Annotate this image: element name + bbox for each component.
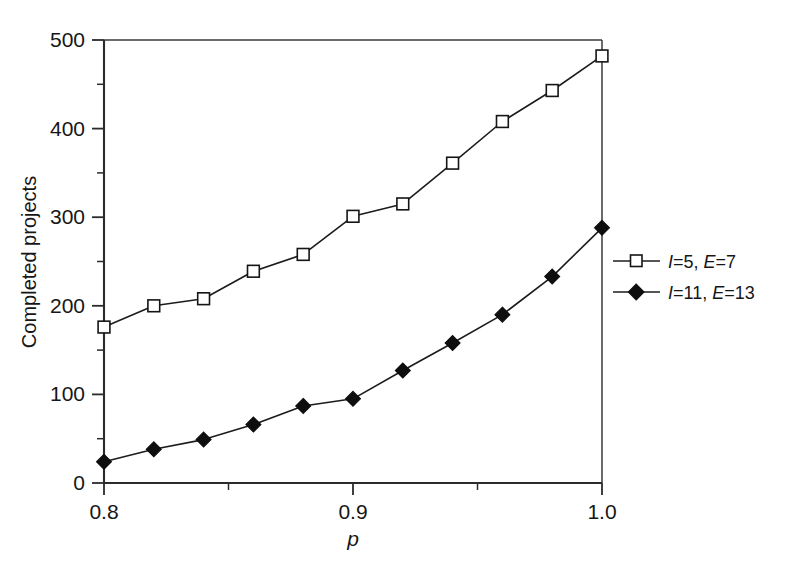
legend-value-E-0: =7 xyxy=(716,252,737,272)
y-axis-ticks xyxy=(92,40,104,483)
legend-value-I-0: =5, xyxy=(673,252,699,272)
data-point-1-0 xyxy=(97,454,112,469)
data-point-0-1 xyxy=(148,300,160,312)
data-point-1-7 xyxy=(445,336,460,351)
y-tick-label-300: 300 xyxy=(50,205,85,228)
x-axis-tick-labels: 0.8 0.9 1.0 xyxy=(89,500,616,523)
data-point-0-10 xyxy=(596,50,608,62)
data-point-0-3 xyxy=(248,265,260,277)
data-point-0-5 xyxy=(347,210,359,222)
y-tick-label-200: 200 xyxy=(50,294,85,317)
data-point-0-7 xyxy=(447,157,459,169)
legend-marker-open-square xyxy=(631,255,643,267)
data-point-1-3 xyxy=(246,417,261,432)
data-point-1-5 xyxy=(346,391,361,406)
y-tick-label-100: 100 xyxy=(50,382,85,405)
x-tick-label-1p0: 1.0 xyxy=(587,500,616,523)
y-tick-label-500: 500 xyxy=(50,28,85,51)
x-tick-label-0p9: 0.9 xyxy=(338,500,367,523)
y-tick-label-0: 0 xyxy=(73,471,85,494)
series-0 xyxy=(98,50,608,333)
y-axis-title: Completed projects xyxy=(18,176,40,348)
data-point-1-8 xyxy=(495,307,510,322)
x-axis-title: p xyxy=(346,527,359,550)
data-point-1-2 xyxy=(196,432,211,447)
legend-label-1: I=11, E=13 xyxy=(668,283,755,303)
series-line-0 xyxy=(104,56,602,327)
series-line-1 xyxy=(104,228,602,462)
data-point-1-6 xyxy=(395,363,410,378)
legend: I=5, E=7 I=11, E=13 xyxy=(613,252,755,303)
legend-label-0: I=5, E=7 xyxy=(668,252,736,272)
y-axis-tick-labels: 0 100 200 300 400 500 xyxy=(50,28,85,494)
x-axis-ticks xyxy=(104,483,602,495)
data-point-0-2 xyxy=(198,293,210,305)
legend-value-E-1: =13 xyxy=(724,283,755,303)
figure-container: 0 100 200 300 400 500 0.8 0.9 1.0 p Comp… xyxy=(0,0,790,571)
data-point-0-8 xyxy=(497,116,509,128)
legend-value-I-1: =11, xyxy=(673,283,707,303)
data-point-0-6 xyxy=(397,198,409,210)
data-point-1-1 xyxy=(146,442,161,457)
x-tick-label-0p8: 0.8 xyxy=(89,500,118,523)
y-tick-label-400: 400 xyxy=(50,117,85,140)
data-point-0-9 xyxy=(546,85,558,97)
series-1 xyxy=(97,220,610,469)
legend-marker-filled-diamond xyxy=(628,284,644,300)
legend-entry-1[interactable]: I=11, E=13 xyxy=(613,283,755,303)
line-chart: 0 100 200 300 400 500 0.8 0.9 1.0 p Comp… xyxy=(0,0,790,571)
legend-entry-0[interactable]: I=5, E=7 xyxy=(613,252,736,272)
data-point-1-4 xyxy=(296,399,311,414)
data-series-layer xyxy=(97,50,610,469)
data-point-0-4 xyxy=(297,249,309,261)
data-point-0-0 xyxy=(98,321,110,333)
